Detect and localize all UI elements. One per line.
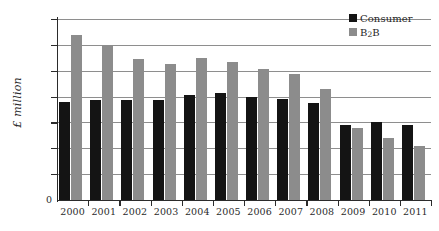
legend-swatch-b2b-icon: [349, 28, 357, 36]
bar-b2b: [352, 128, 363, 200]
bar-consumer: [184, 95, 195, 200]
bar-b2b: [258, 69, 269, 200]
bar-consumer: [121, 100, 132, 200]
bar-group: [306, 19, 337, 200]
bar-b2b: [414, 146, 425, 200]
bar-b2b: [165, 64, 176, 200]
bar-group: [182, 19, 213, 200]
bar-groups: [57, 19, 431, 200]
x-axis-tick-label: 2011: [395, 206, 435, 217]
bar-group: [57, 19, 88, 200]
bar-group: [369, 19, 400, 200]
bar-group: [244, 19, 275, 200]
legend-swatch-consumer-icon: [349, 14, 357, 22]
bar-b2b: [71, 35, 82, 200]
bar-consumer: [371, 122, 382, 200]
bar-consumer: [153, 100, 164, 200]
y-axis-zero-label: 0: [40, 194, 52, 205]
legend-label-consumer: Consumer: [360, 13, 413, 24]
bar-group: [213, 19, 244, 200]
bar-group: [275, 19, 306, 200]
legend-label-b2b-sub: 2: [367, 30, 372, 39]
bar-consumer: [402, 125, 413, 200]
bar-b2b: [196, 58, 207, 200]
bar-consumer: [215, 93, 226, 200]
bar-group: [400, 19, 431, 200]
bar-group: [88, 19, 119, 200]
y-axis-title: £ million: [11, 63, 24, 143]
legend-label-b2b: B2B: [360, 27, 380, 38]
bar-b2b: [289, 74, 300, 200]
legend-item-consumer[interactable]: Consumer: [349, 12, 413, 24]
legend-label-b2b-tail: B: [372, 27, 379, 38]
bar-b2b: [133, 59, 144, 200]
bar-consumer: [59, 102, 70, 200]
bar-consumer: [90, 100, 101, 200]
bar-consumer: [277, 99, 288, 200]
bar-b2b: [102, 45, 113, 200]
bar-group: [119, 19, 150, 200]
bar-b2b: [383, 138, 394, 200]
bar-group: [338, 19, 369, 200]
bar-consumer: [340, 125, 351, 200]
bar-consumer: [246, 97, 257, 200]
bar-group: [151, 19, 182, 200]
legend: Consumer B2B: [349, 12, 413, 40]
bar-consumer: [308, 103, 319, 200]
bar-b2b: [320, 89, 331, 200]
bar-b2b: [227, 62, 238, 200]
legend-item-b2b[interactable]: B2B: [349, 26, 413, 38]
bar-chart: £ million 200400600800100012001400 0 200…: [0, 0, 439, 231]
